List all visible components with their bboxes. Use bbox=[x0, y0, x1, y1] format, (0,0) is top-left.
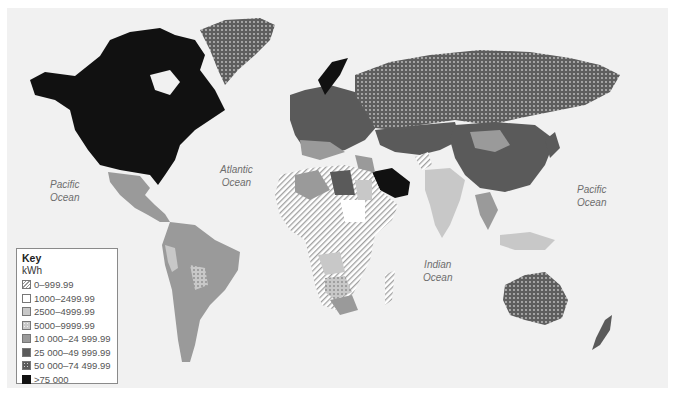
legend-label: 25 000–49 999.99 bbox=[34, 347, 111, 358]
ocean-word: Ocean bbox=[50, 191, 79, 204]
ocean-name: Atlantic bbox=[220, 163, 253, 176]
ocean-word: Ocean bbox=[220, 176, 253, 189]
ocean-word: Ocean bbox=[423, 271, 452, 284]
legend-item: 25 000–49 999.99 bbox=[22, 346, 117, 360]
map-legend: Key kWh 0–999.99 1000–2499.99 2500–4999.… bbox=[16, 248, 118, 384]
legend-item: 50 000–74 499.99 bbox=[22, 359, 117, 373]
region-north-america bbox=[30, 28, 225, 185]
region-china bbox=[450, 122, 560, 192]
ocean-label-indian: Indian Ocean bbox=[423, 258, 452, 284]
region-south-america bbox=[162, 222, 240, 362]
legend-label: 5000–9999.99 bbox=[34, 320, 95, 331]
legend-unit: kWh bbox=[22, 265, 117, 277]
light-dotted-swatch-icon bbox=[22, 321, 31, 330]
region-australia bbox=[503, 272, 568, 325]
legend-label: 10 000–24 999.99 bbox=[34, 333, 111, 344]
ocean-label-pacific-east: Pacific Ocean bbox=[577, 183, 606, 209]
legend-title: Key bbox=[22, 252, 117, 265]
legend-item: 1000–2499.99 bbox=[22, 292, 117, 306]
ocean-name: Pacific bbox=[577, 183, 606, 196]
ocean-label-atlantic: Atlantic Ocean bbox=[220, 163, 253, 189]
black-swatch-icon bbox=[22, 375, 31, 384]
legend-label: 0–999.99 bbox=[34, 279, 74, 290]
region-russia bbox=[355, 50, 620, 130]
ocean-word: Ocean bbox=[577, 196, 606, 209]
region-southeast-asia bbox=[475, 192, 555, 250]
legend-item: 10 000–24 999.99 bbox=[22, 332, 117, 346]
mid-grey-swatch-icon bbox=[22, 334, 31, 343]
light-grey-swatch-icon bbox=[22, 307, 31, 316]
legend-label: >75 000 bbox=[34, 374, 69, 385]
dark-dotted-swatch-icon bbox=[22, 361, 31, 370]
dark-grey-swatch-icon bbox=[22, 348, 31, 357]
region-greenland bbox=[200, 18, 275, 85]
legend-item: 2500–4999.99 bbox=[22, 305, 117, 319]
legend-item: 5000–9999.99 bbox=[22, 319, 117, 333]
hatched-swatch-icon bbox=[22, 280, 31, 289]
ocean-name: Indian bbox=[423, 258, 452, 271]
legend-label: 50 000–74 499.99 bbox=[34, 360, 111, 371]
white-swatch-icon bbox=[22, 294, 31, 303]
legend-label: 1000–2499.99 bbox=[34, 293, 95, 304]
ocean-name: Pacific bbox=[50, 178, 79, 191]
legend-label: 2500–4999.99 bbox=[34, 306, 95, 317]
ocean-label-pacific-west: Pacific Ocean bbox=[50, 178, 79, 204]
legend-item: 0–999.99 bbox=[22, 278, 117, 292]
legend-item: >75 000 bbox=[22, 373, 117, 387]
region-new-zealand bbox=[592, 315, 612, 350]
region-india bbox=[425, 168, 465, 238]
